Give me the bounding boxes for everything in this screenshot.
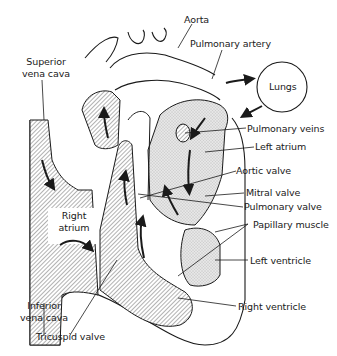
label-aortic-valve: Aortic valve bbox=[236, 165, 291, 176]
label-aorta: Aorta bbox=[184, 14, 209, 25]
arrow-rv-up bbox=[141, 220, 144, 258]
label-right-atrium-2: atrium bbox=[52, 222, 96, 233]
label-lungs: Lungs bbox=[269, 81, 297, 92]
label-pulmonary-veins: Pulmonary veins bbox=[247, 123, 324, 134]
label-papillary-muscle: Papillary muscle bbox=[253, 219, 329, 230]
label-inferior-vena-cava-2: vena cava bbox=[14, 312, 74, 323]
label-mitral-valve: Mitral valve bbox=[246, 187, 300, 198]
label-left-atrium: Left atrium bbox=[255, 141, 306, 152]
arrow-from-lungs bbox=[245, 106, 262, 115]
label-right-atrium-1: Right bbox=[52, 210, 96, 221]
left-ventricle-region bbox=[181, 228, 220, 286]
label-inferior-vena-cava-1: Inferior bbox=[20, 300, 68, 311]
label-superior-vena-cava-1: Superior bbox=[26, 56, 66, 67]
label-tricuspid-valve: Tricuspid valve bbox=[36, 331, 105, 342]
pulmonary-trunk-region bbox=[82, 91, 120, 149]
label-pulmonary-valve: Pulmonary valve bbox=[244, 201, 322, 212]
label-right-ventricle: Right ventricle bbox=[238, 301, 306, 312]
arrow-to-lungs bbox=[226, 79, 250, 83]
label-pulmonary-artery: Pulmonary artery bbox=[190, 38, 271, 49]
label-left-ventricle: Left ventricle bbox=[250, 255, 311, 266]
label-superior-vena-cava-2: vena cava bbox=[18, 68, 74, 79]
